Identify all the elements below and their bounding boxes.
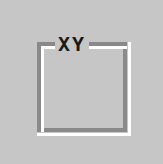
canvas: XY xyxy=(0,0,163,164)
groupbox-inner-highlight xyxy=(41,46,127,132)
groupbox-legend: XY xyxy=(55,33,89,55)
